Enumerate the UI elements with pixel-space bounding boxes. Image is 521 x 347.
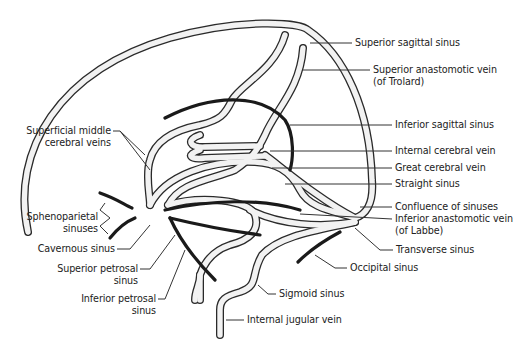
- label-superficial-middle-cerebral-veins: Superficial middle: [22, 125, 111, 137]
- label-internal-jugular-vein: Internal jugular vein: [247, 314, 342, 326]
- label-inferior-sagittal-sinus: Inferior sagittal sinus: [395, 119, 494, 131]
- label-sigmoid-sinus: Sigmoid sinus: [279, 288, 344, 300]
- label-sphenoparietal-sinuses: Sphenoparietal: [8, 211, 98, 223]
- label-inferior-petrosal-sinus-2: sinus: [50, 305, 156, 317]
- label-straight-sinus: Straight sinus: [395, 178, 460, 190]
- label-superior-anastomotic-vein: Superior anastomotic vein: [373, 64, 497, 76]
- label-internal-cerebral-vein: Internal cerebral vein: [395, 145, 496, 157]
- label-transverse-sinus: Transverse sinus: [396, 244, 474, 256]
- label-confluence-of-sinuses: Confluence of sinuses: [395, 201, 498, 213]
- label-superior-petrosal-sinus-2: sinus: [30, 275, 138, 287]
- label-superior-anastomotic-vein-eponym: (of Trolard): [373, 76, 424, 88]
- label-inferior-anastomotic-vein-eponym: (of Labbe): [395, 225, 443, 237]
- label-superior-petrosal-sinus: Superior petrosal: [30, 263, 138, 275]
- label-sphenoparietal-sinuses-2: sinuses: [8, 223, 98, 235]
- label-great-cerebral-vein: Great cerebral vein: [395, 162, 486, 174]
- label-inferior-anastomotic-vein: Inferior anastomotic vein: [395, 213, 513, 225]
- label-superficial-middle-cerebral-veins-2: cerebral veins: [22, 137, 111, 149]
- label-inferior-petrosal-sinus: Inferior petrosal: [50, 293, 156, 305]
- label-cavernous-sinus: Cavernous sinus: [10, 243, 115, 255]
- label-occipital-sinus: Occipital sinus: [350, 262, 418, 274]
- label-superior-sagittal-sinus: Superior sagittal sinus: [355, 37, 460, 49]
